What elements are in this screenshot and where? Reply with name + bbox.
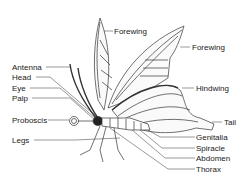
label-antenna: Antenna xyxy=(12,63,42,72)
label-forewing: Forewing xyxy=(192,43,225,52)
label-palp: Palp xyxy=(12,94,28,103)
label-abdomen: Abdomen xyxy=(196,154,230,163)
label-thorax: Thorax xyxy=(196,165,221,174)
label-hindwing: Hindwing xyxy=(196,84,229,93)
label-eye: Eye xyxy=(12,84,26,93)
label-forewing-top: Forewing xyxy=(114,27,147,36)
label-head: Head xyxy=(12,73,31,82)
butterfly-diagram: Antenna Head Eye Palp Proboscis Legs For… xyxy=(0,0,247,181)
label-tail: Tail xyxy=(224,118,236,127)
label-legs: Legs xyxy=(12,136,29,145)
label-spiracle: Spiracle xyxy=(196,144,225,153)
label-genitalia: Genitalia xyxy=(196,133,228,142)
label-proboscis: Proboscis xyxy=(12,116,47,125)
